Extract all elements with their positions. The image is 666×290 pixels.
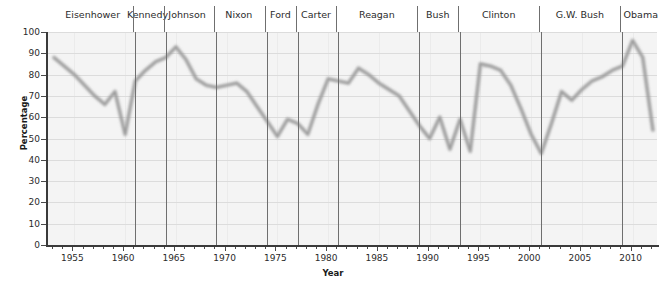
president-label-nixon: Nixon [225, 9, 252, 20]
president-label-eisenhower: Eisenhower [65, 9, 120, 20]
y-axis-tick-label: 90 [0, 48, 40, 58]
term-divider-line [541, 32, 542, 245]
president-label-band: EisenhowerKennedyJohnsonNixonFordCarterR… [0, 0, 666, 30]
term-divider-line [216, 32, 217, 245]
y-axis-tick [41, 202, 46, 203]
term-divider-line-top [539, 6, 540, 32]
y-axis-tick-label: 30 [0, 176, 40, 186]
x-axis-tick-label: 2005 [568, 253, 591, 263]
x-axis-tick-label: 1955 [61, 253, 84, 263]
y-axis-tick [41, 160, 46, 161]
president-label-ford: Ford [270, 9, 291, 20]
y-axis-tick-label: 10 [0, 219, 40, 229]
chart-container: EisenhowerKennedyJohnsonNixonFordCarterR… [0, 0, 666, 290]
term-divider-line [298, 32, 299, 245]
term-divider-line [338, 32, 339, 245]
y-axis-tick [41, 32, 46, 33]
plot-area [46, 32, 657, 245]
y-axis-tick [41, 181, 46, 182]
y-axis-tick-label: 0 [0, 240, 40, 250]
term-divider-line [419, 32, 420, 245]
x-axis-tick-label: 1960 [112, 253, 135, 263]
x-axis-tick-label: 1970 [213, 253, 236, 263]
term-divider-line-top [417, 6, 418, 32]
x-axis-tick-label: 2010 [619, 253, 642, 263]
x-axis-tick-label: 1975 [264, 253, 287, 263]
y-axis-tick [41, 117, 46, 118]
x-axis-tick-label: 1980 [315, 253, 338, 263]
x-axis-line [46, 245, 659, 247]
term-divider-line-top [458, 6, 459, 32]
series-line [54, 41, 653, 154]
y-axis-label: Percentage [19, 83, 29, 163]
x-axis-tick-label: 1990 [416, 253, 439, 263]
x-axis-tick-label: 1965 [162, 253, 185, 263]
y-axis-tick [41, 53, 46, 54]
term-divider-line-top [214, 6, 215, 32]
term-divider-line-top [164, 6, 165, 32]
x-axis-tick-label: 1985 [365, 253, 388, 263]
president-label-g-w-bush: G.W. Bush [556, 9, 604, 20]
approval-line-series [48, 32, 657, 245]
x-axis-tick-label: 2000 [518, 253, 541, 263]
term-divider-line-top [620, 6, 621, 32]
x-axis-tick-label: 1995 [467, 253, 490, 263]
term-divider-line-top [133, 6, 134, 32]
president-label-reagan: Reagan [359, 9, 395, 20]
y-axis-tick [41, 75, 46, 76]
y-axis-tick [41, 139, 46, 140]
president-label-johnson: Johnson [168, 9, 205, 20]
y-axis-tick-label: 80 [0, 70, 40, 80]
term-divider-line [622, 32, 623, 245]
president-label-obama: Obama [624, 9, 658, 20]
y-axis-tick-label: 100 [0, 27, 40, 37]
term-divider-line-top [296, 6, 297, 32]
term-divider-line [460, 32, 461, 245]
y-axis-tick [41, 224, 46, 225]
term-divider-line [135, 32, 136, 245]
president-label-clinton: Clinton [482, 9, 516, 20]
term-divider-line-top [265, 6, 266, 32]
x-axis-label: Year [0, 268, 666, 278]
y-axis-tick [41, 96, 46, 97]
term-divider-line [267, 32, 268, 245]
president-label-bush: Bush [426, 9, 450, 20]
y-axis-tick-label: 20 [0, 197, 40, 207]
term-divider-line-top [336, 6, 337, 32]
term-divider-line [166, 32, 167, 245]
president-label-carter: Carter [301, 9, 331, 20]
series-line-halo [54, 41, 653, 154]
